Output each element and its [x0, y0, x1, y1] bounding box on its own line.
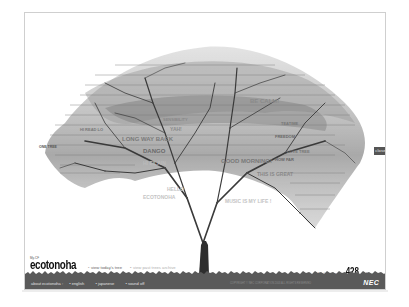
- leaf-message[interactable]: HI READ LO: [80, 127, 103, 132]
- footer-link-sound-off[interactable]: • sound off: [125, 281, 149, 286]
- tree-viewer-frame: BE CALM! LONG WAY BACK DANGO YAH! GOOD M…: [24, 12, 386, 290]
- nec-logo[interactable]: NEC: [363, 279, 379, 286]
- close-button[interactable]: close: [374, 147, 386, 155]
- leaf-message[interactable]: SENSIBILITY: [163, 117, 188, 122]
- english-label: english: [72, 281, 85, 286]
- copyright-text: COPYRIGHT © NEC CORPORATION 2003 ALL RIG…: [230, 282, 311, 285]
- sound-off-label: sound off: [128, 281, 144, 286]
- footer-link-english[interactable]: • english: [69, 281, 89, 286]
- leaf-message[interactable]: TEATIME: [281, 121, 299, 126]
- leaf-message[interactable]: ONE TREE: [39, 145, 58, 149]
- canopy-leaves: [45, 47, 365, 228]
- leaf-message[interactable]: THIS IS GREAT: [257, 171, 293, 177]
- leaf-message[interactable]: HI EILAIN: [143, 160, 166, 166]
- leaf-message[interactable]: MUSIC IS MY LIFE !: [225, 198, 272, 204]
- leaf-message[interactable]: GOOD MORNING!: [221, 158, 272, 164]
- leaf-message[interactable]: HELLO: [167, 186, 184, 192]
- leaf-message[interactable]: YAH!: [170, 126, 182, 132]
- leaf-message[interactable]: DANGO: [143, 148, 166, 154]
- leaf-message[interactable]: ECOTONOHA: [143, 194, 176, 200]
- leaf-message[interactable]: BE CALM!: [250, 98, 279, 104]
- about-ecotonoha-label[interactable]: about ecotonoha :: [31, 281, 63, 286]
- footer-bar: about ecotonoha : • english • japanese •…: [25, 275, 386, 290]
- message-tree: BE CALM! LONG WAY BACK DANGO YAH! GOOD M…: [25, 13, 386, 290]
- frame-shadow: [22, 290, 388, 292]
- footer-link-japanese[interactable]: • japanese: [95, 281, 119, 286]
- leaf-message[interactable]: LOVE TREE: [287, 149, 310, 154]
- leaf-message[interactable]: LONG WAY BACK: [122, 136, 174, 142]
- leaf-message[interactable]: HOW FAR: [275, 157, 294, 162]
- footer-links: about ecotonoha : • english • japanese •…: [31, 281, 154, 286]
- leaf-message[interactable]: FREEDOM: [275, 134, 296, 139]
- japanese-label: japanese: [98, 281, 114, 286]
